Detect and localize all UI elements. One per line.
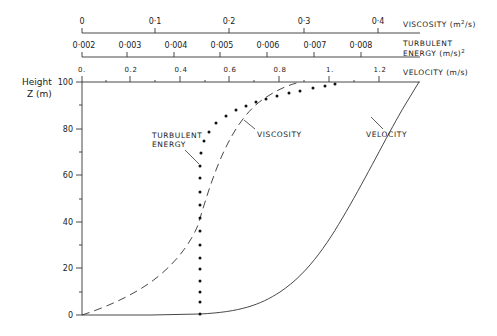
turbulent-energy-axis xyxy=(82,52,420,57)
te-tick-0.004: 0·004 xyxy=(165,41,188,50)
svg-text:TURBULENT: TURBULENT xyxy=(402,39,453,48)
vel-tick-0: 0. xyxy=(78,66,86,74)
vel-tick-0.2: 0.2 xyxy=(125,66,138,74)
svg-text:ENERGY (m/s)2: ENERGY (m/s)2 xyxy=(403,48,465,58)
turbulent-energy-dots xyxy=(199,83,337,316)
visc-tick-0.4: 0·4 xyxy=(372,17,385,26)
y-tick-100: 100 xyxy=(58,78,73,87)
y-axis xyxy=(76,82,82,315)
y-axis-label-z: Z (m) xyxy=(27,89,52,99)
turbulent-energy-axis-label: TURBULENT ENERGY (m/s)2 xyxy=(402,39,465,58)
y-tick-40: 40 xyxy=(63,218,73,227)
visc-tick-0.1: 0·1 xyxy=(149,17,162,26)
chart: 0 0·1 0·2 0·3 0·4 VISCOSITY (m2/s) 0·002… xyxy=(0,0,497,336)
y-axis-label-height: Height xyxy=(22,77,52,87)
visc-tick-0: 0 xyxy=(79,17,84,26)
visc-tick-0.3: 0·3 xyxy=(298,17,311,26)
viscosity-axis-label: VISCOSITY (m2/s) xyxy=(403,19,476,29)
y-tick-80: 80 xyxy=(63,125,73,134)
te-tick-0.007: 0·007 xyxy=(304,41,327,50)
velocity-curve xyxy=(82,82,419,315)
te-tick-0.005: 0·005 xyxy=(211,41,234,50)
te-tick-0.002: 0·002 xyxy=(73,41,96,50)
annotation-leader-visc xyxy=(244,120,255,129)
y-tick-20: 20 xyxy=(63,264,73,273)
annotation-turbulent-energy-line1: TURBULENT xyxy=(151,131,202,140)
te-tick-0.003: 0·003 xyxy=(119,41,142,50)
viscosity-axis xyxy=(82,28,420,33)
velocity-axis-label: VELOCITY (m/s) xyxy=(403,68,468,77)
vel-tick-1: 1. xyxy=(326,66,334,74)
vel-tick-0.6: 0.6 xyxy=(224,66,237,74)
vel-tick-0.4: 0.4 xyxy=(175,66,188,74)
viscosity-curve xyxy=(82,82,300,315)
te-tick-0.008: 0·008 xyxy=(350,41,373,50)
y-tick-0: 0 xyxy=(68,311,73,320)
visc-tick-0.2: 0·2 xyxy=(223,17,236,26)
vel-tick-1.2: 1.2 xyxy=(374,66,387,74)
annotation-turbulent-energy-line2: ENERGY xyxy=(152,140,186,149)
y-tick-60: 60 xyxy=(63,171,73,180)
annotation-velocity: VELOCITY xyxy=(366,130,407,139)
vel-tick-0.8: 0.8 xyxy=(274,66,287,74)
annotation-viscosity: VISCOSITY xyxy=(257,130,302,139)
annotation-leader-vel xyxy=(371,117,383,129)
te-tick-0.006: 0·006 xyxy=(257,41,280,50)
velocity-axis xyxy=(76,76,420,82)
annotation-leader-te xyxy=(185,150,199,164)
